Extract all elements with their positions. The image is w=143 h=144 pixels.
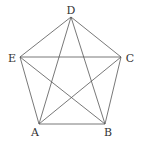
edge-ea xyxy=(20,57,39,124)
edge-db xyxy=(71,17,105,124)
vertex-label-e: E xyxy=(8,52,16,65)
edge-ca xyxy=(39,57,121,124)
pentagon-diagram: D E C A B xyxy=(0,0,143,144)
labels-group: D E C A B xyxy=(8,4,134,139)
edge-cb xyxy=(105,57,121,124)
edge-de xyxy=(20,17,71,57)
edges-group xyxy=(20,17,121,124)
vertex-label-d: D xyxy=(67,4,76,17)
edge-dc xyxy=(71,17,121,57)
edge-eb xyxy=(20,57,105,124)
edge-da xyxy=(39,17,71,124)
vertex-label-b: B xyxy=(104,126,112,139)
vertex-label-c: C xyxy=(126,52,134,65)
vertex-label-a: A xyxy=(30,126,40,139)
diagram-svg: D E C A B xyxy=(0,0,143,144)
